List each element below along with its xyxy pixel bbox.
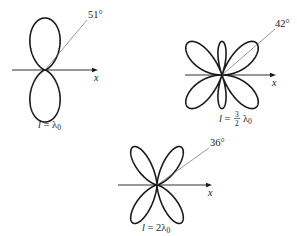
- caption-equals: =: [41, 119, 52, 130]
- caption-equals: =: [222, 113, 231, 124]
- max-lobe-angle-line: [45, 20, 87, 70]
- svg-text:l =: l =: [219, 113, 231, 124]
- angle-label: 51°: [88, 9, 103, 20]
- pattern-l-3-2-lambda0: x 42° l = 3 2 λ0: [185, 18, 290, 128]
- svg-text:λ0: λ0: [243, 113, 252, 126]
- caption-fraction-denominator: 2: [235, 119, 239, 128]
- caption-subscript: 0: [57, 123, 61, 132]
- x-axis-label: x: [207, 187, 213, 198]
- angle-label: 42°: [275, 18, 290, 29]
- pattern-l-lambda0: x 51° l = λ0: [12, 9, 103, 132]
- caption-subscript: 0: [166, 226, 170, 235]
- max-lobe-angle-line: [222, 29, 275, 75]
- x-axis-label: x: [271, 77, 277, 88]
- pattern-caption: l = 2λ0: [142, 222, 170, 235]
- pattern-caption: l = λ0: [38, 119, 61, 132]
- caption-subscript: 0: [248, 117, 252, 126]
- pattern-caption: l = 3 2 λ0: [219, 110, 252, 128]
- caption-equals: =: [145, 222, 156, 233]
- radiation-pattern-diagram: x 51° l = λ0 x 42° l = 3 2 λ0 x: [0, 0, 297, 236]
- angle-label: 36°: [210, 137, 225, 148]
- caption-fraction-numerator: 3: [235, 110, 239, 119]
- x-axis-label: x: [93, 72, 99, 83]
- pattern-l-2-lambda0: x 36° l = 2λ0: [118, 137, 225, 235]
